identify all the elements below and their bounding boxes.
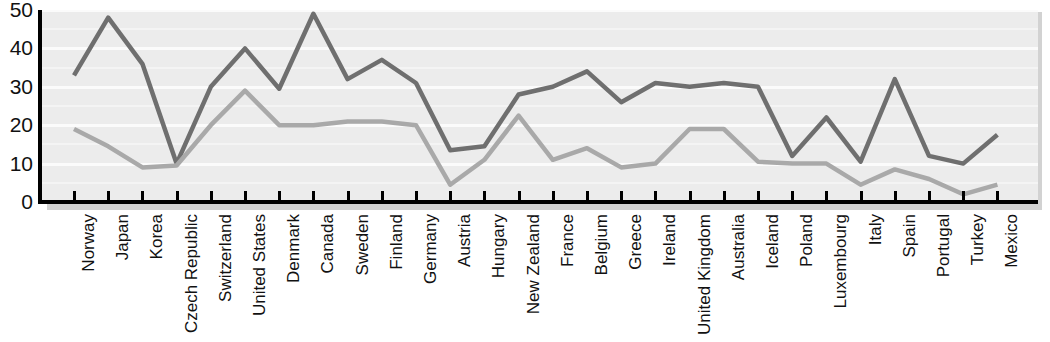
x-tick-label: Denmark: [285, 214, 302, 283]
x-tick-label: Czech Republic: [183, 214, 200, 333]
x-tick: [347, 191, 350, 201]
series-lines: [40, 10, 1038, 202]
y-tick-label: 10: [10, 153, 33, 174]
x-tick-label: Korea: [148, 214, 165, 259]
x-tick-label: United States: [251, 214, 268, 316]
x-tick: [278, 191, 281, 201]
x-tick-label: Poland: [798, 214, 815, 267]
x-tick: [449, 191, 452, 201]
x-tick-label: Finland: [388, 214, 405, 270]
series-line-lower-series: [74, 91, 997, 195]
x-tick: [176, 191, 179, 201]
x-tick: [894, 191, 897, 201]
x-axis-line: [38, 200, 1038, 204]
x-tick: [860, 191, 863, 201]
x-tick-label: Sweden: [354, 214, 371, 275]
x-tick-label: Italy: [867, 214, 884, 245]
x-tick: [312, 191, 315, 201]
x-tick: [723, 191, 726, 201]
x-tick: [654, 191, 657, 201]
y-tick-label: 20: [10, 114, 33, 135]
x-tick-label: New Zealand: [525, 214, 542, 314]
x-tick-label: Austria: [456, 214, 473, 267]
x-tick-label: France: [559, 214, 576, 267]
x-tick-label: Australia: [730, 214, 747, 280]
x-tick: [996, 191, 999, 201]
x-tick: [757, 191, 760, 201]
x-tick: [552, 191, 555, 201]
y-tick-label: 40: [10, 37, 33, 58]
x-tick-label: Belgium: [593, 214, 610, 275]
x-tick: [620, 191, 623, 201]
x-tick-label: Germany: [422, 214, 439, 284]
x-tick-label: Luxembourg: [832, 214, 849, 309]
x-tick-label: Hungary: [490, 214, 507, 278]
y-axis: 01020304050: [0, 0, 36, 210]
x-tick-label: Japan: [114, 214, 131, 260]
x-axis: NorwayJapanKoreaCzech RepublicSwitzerlan…: [0, 208, 1050, 342]
x-tick: [689, 191, 692, 201]
x-tick: [518, 191, 521, 201]
x-tick: [825, 191, 828, 201]
x-tick: [483, 191, 486, 201]
x-tick: [928, 191, 931, 201]
line-chart: 01020304050 NorwayJapanKoreaCzech Republ…: [0, 0, 1050, 342]
y-tick-label: 30: [10, 76, 33, 97]
x-tick: [791, 191, 794, 201]
y-axis-line: [38, 10, 42, 204]
x-tick: [141, 191, 144, 201]
x-tick: [415, 191, 418, 201]
y-tick-label: 50: [10, 0, 33, 20]
x-tick: [381, 191, 384, 201]
x-tick: [73, 191, 76, 201]
x-tick-label: Iceland: [764, 214, 781, 269]
x-tick-label: Ireland: [661, 214, 678, 266]
plot-area: [40, 10, 1038, 202]
x-tick-label: Norway: [80, 214, 97, 272]
x-tick-label: Turkey: [969, 214, 986, 265]
x-tick: [107, 191, 110, 201]
x-tick: [586, 191, 589, 201]
x-tick: [244, 191, 247, 201]
x-tick-label: Greece: [627, 214, 644, 270]
x-tick-label: Portugal: [935, 214, 952, 277]
x-tick-label: United Kingdom: [696, 214, 713, 335]
x-tick-label: Canada: [319, 214, 336, 274]
x-tick-label: Switzerland: [217, 214, 234, 302]
x-tick: [210, 191, 213, 201]
x-tick-label: Spain: [901, 214, 918, 257]
x-tick-label: Mexico: [1003, 214, 1020, 268]
x-tick: [962, 191, 965, 201]
